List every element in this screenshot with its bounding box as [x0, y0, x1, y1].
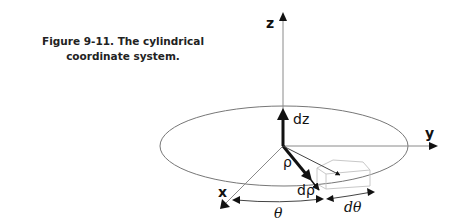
d-theta-arrowhead-left [326, 195, 334, 202]
y-axis-arrowhead [429, 142, 438, 150]
cylindrical-coordinate-diagram: z y x dz ρ dρ θ dθ [0, 0, 455, 223]
x-axis [224, 146, 283, 205]
volume-element-box [317, 160, 370, 189]
dz-label: dz [293, 111, 309, 127]
z-axis-label: z [266, 15, 274, 31]
z-axis-arrowhead [279, 12, 287, 21]
theta-arc-arrowhead-left [232, 196, 240, 204]
theta-arc [236, 199, 322, 202]
y-axis-label: y [425, 125, 434, 141]
d-theta-label: dθ [344, 199, 362, 215]
theta-arc-arrowhead-right [316, 195, 324, 203]
rho-label: ρ [283, 154, 292, 170]
d-rho-label: dρ [297, 182, 315, 198]
dz-arrowhead [277, 108, 289, 120]
x-axis-label: x [218, 184, 227, 200]
theta-label: θ [274, 205, 283, 221]
d-theta-arrowhead-right [367, 188, 375, 196]
d-theta-arc [328, 192, 372, 199]
